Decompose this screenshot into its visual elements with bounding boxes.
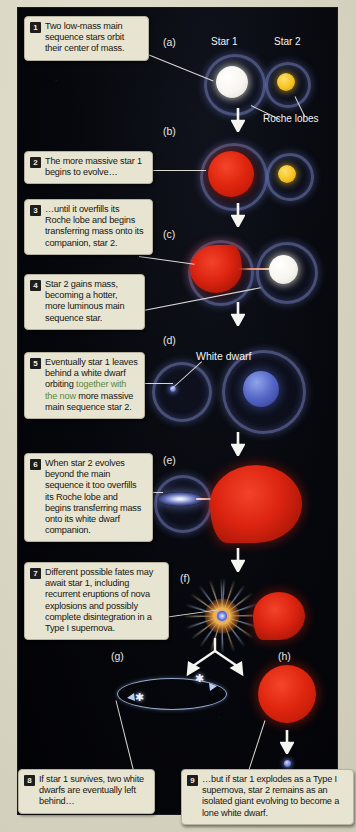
figure-page: (a) Star 1 Star 2 Roche lobes (b) (c) (d…: [0, 0, 356, 832]
panel-label-c: (c): [163, 228, 175, 240]
callout-6[interactable]: 6 When star 2 evolves beyond the main se…: [24, 453, 153, 542]
flow-arrow-e-f: [231, 548, 245, 572]
star-1-main-sequence-a: [216, 66, 248, 98]
star-2-main-sequence-a: [277, 73, 295, 91]
callout-1-number: 1: [30, 22, 41, 33]
callout-8-number: 8: [24, 775, 35, 786]
flow-arrow-a-b: [231, 108, 245, 132]
callout-6-text: When star 2 evolves beyond the main sequ…: [45, 458, 146, 536]
callout-9-text: …but if star 1 explodes as a Type I supe…: [202, 774, 347, 819]
star-1-roche-filling-c: [190, 245, 242, 293]
star-2-massive-d: [243, 371, 279, 407]
flow-arrow-d-e: [231, 432, 245, 456]
callout-7[interactable]: 7 Different possible fates may await sta…: [24, 562, 169, 640]
panel-label-f: (f): [180, 572, 190, 584]
callout-3-number: 3: [30, 205, 41, 216]
panel-label-h: (h): [278, 650, 291, 662]
callout-3-text: …until it overfills its Roche lobe and b…: [45, 204, 146, 249]
callout-4[interactable]: 4 Star 2 gains mass, becoming a hotter, …: [24, 274, 145, 330]
star-2-label: Star 2: [274, 36, 301, 47]
callout-8[interactable]: 8 If star 1 survives, two white dwarfs a…: [18, 769, 155, 814]
star-2-main-sequence-b: [278, 165, 296, 183]
star-1-label: Star 1: [211, 36, 238, 47]
panel-label-g: (g): [111, 650, 124, 662]
callout-4-text: Star 2 gains mass, becoming a hotter, mo…: [45, 279, 138, 324]
callout-5-text: Eventually star 1 leaves behind a white …: [45, 357, 138, 413]
callout-5-number: 5: [30, 358, 41, 369]
star-2-red-giant-f: [253, 592, 305, 640]
white-dwarf-label: White dwarf: [196, 350, 251, 362]
orbit-direction-arrows-g: [113, 674, 231, 714]
panel-label-e: (e): [163, 454, 176, 466]
branch-arrows-f: [160, 638, 270, 678]
callout-2-number: 2: [30, 157, 41, 168]
panel-label-d: (d): [163, 334, 176, 346]
callout-5[interactable]: 5 Eventually star 1 leaves behind a whit…: [24, 352, 145, 419]
callout-2[interactable]: 2 The more massive star 1 begins to evol…: [24, 151, 153, 184]
callout-9[interactable]: 9 …but if star 1 explodes as a Type I su…: [181, 769, 354, 825]
callout-1-text: Two low-mass main sequence stars orbit t…: [45, 21, 142, 55]
flow-arrow-c-d: [231, 302, 245, 326]
lone-white-dwarf-h: [284, 760, 291, 767]
callout-3[interactable]: 3 …until it overfills its Roche lobe and…: [24, 199, 153, 255]
flow-arrow-b-c: [231, 203, 245, 227]
star-2-accreting-c: [269, 255, 298, 284]
callout-1[interactable]: 1 Two low-mass main sequence stars orbit…: [24, 16, 149, 61]
callout-8-text: If star 1 survives, two white dwarfs are…: [39, 774, 148, 808]
callout-2-text: The more massive star 1 begins to evolve…: [45, 156, 146, 178]
panel-label-a: (a): [163, 36, 176, 48]
star-2-red-giant-e: [210, 465, 302, 543]
callout-7-number: 7: [30, 568, 41, 579]
callout-7-text: Different possible fates may await star …: [45, 567, 162, 634]
callout-6-number: 6: [30, 459, 41, 470]
callout-9-number: 9: [187, 775, 198, 786]
callout-2-leader: [150, 170, 206, 171]
callout-4-number: 4: [30, 280, 41, 291]
panel-label-b: (b): [163, 125, 176, 137]
roche-lobe-primary-d: [152, 362, 212, 422]
flow-arrow-h: [280, 730, 294, 754]
star-1-evolving-b: [208, 151, 254, 197]
